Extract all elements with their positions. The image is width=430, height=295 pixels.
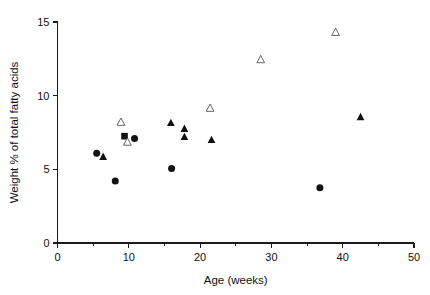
data-point-open-triangle-2 <box>206 104 214 111</box>
data-point-filled-circle-4 <box>316 184 323 191</box>
x-tick-label-0: 0 <box>54 251 60 263</box>
data-point-filled-triangle-1 <box>167 119 175 126</box>
x-axis-title: Age (weeks) <box>204 274 268 286</box>
data-point-filled-circle-2 <box>131 135 138 142</box>
series-filled-triangle <box>99 113 364 160</box>
data-points-group <box>93 28 364 191</box>
data-point-open-triangle-0 <box>117 118 125 125</box>
y-tick-label-10: 10 <box>37 90 49 102</box>
y-axis-title: Weight % of total fatty acids <box>8 61 20 203</box>
x-tick-label-10: 10 <box>123 251 135 263</box>
data-point-open-triangle-3 <box>257 55 265 62</box>
data-point-open-triangle-4 <box>332 28 340 35</box>
data-point-filled-triangle-0 <box>99 153 107 160</box>
chart-canvas: 05101501020304050Age (weeks)Weight % of … <box>0 0 430 295</box>
data-point-filled-triangle-3 <box>181 133 189 140</box>
data-point-filled-triangle-5 <box>357 113 365 120</box>
data-point-filled-circle-1 <box>112 178 119 185</box>
y-tick-label-5: 5 <box>43 163 49 175</box>
x-tick-label-40: 40 <box>337 251 349 263</box>
data-point-filled-circle-0 <box>93 150 100 157</box>
x-tick-label-50: 50 <box>408 251 420 263</box>
x-tick-label-20: 20 <box>194 251 206 263</box>
data-point-filled-circle-3 <box>168 165 175 172</box>
data-point-filled-triangle-2 <box>181 125 189 132</box>
series-open-triangle <box>117 28 339 145</box>
data-point-filled-triangle-4 <box>208 136 216 143</box>
y-tick-label-0: 0 <box>43 237 49 249</box>
y-tick-label-15: 15 <box>37 16 49 28</box>
scatter-plot-figure: 05101501020304050Age (weeks)Weight % of … <box>0 0 430 295</box>
x-tick-label-30: 30 <box>265 251 277 263</box>
